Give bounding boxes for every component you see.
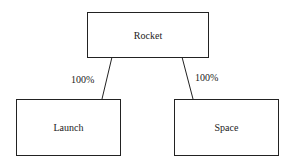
node-rocket: Rocket [87, 12, 209, 58]
node-label: Launch [54, 122, 84, 133]
node-label: Space [215, 122, 239, 133]
edge-label-launch: 100% [71, 74, 94, 85]
edge-label-space: 100% [195, 72, 218, 83]
node-space: Space [174, 99, 279, 156]
node-launch: Launch [16, 99, 121, 156]
tree-diagram: Rocket Launch Space 100% 100% [0, 0, 294, 165]
node-label: Rocket [134, 30, 162, 41]
